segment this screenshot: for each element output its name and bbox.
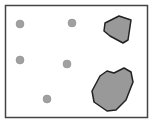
- circle-marker: [16, 56, 24, 64]
- circle-marker: [16, 20, 24, 28]
- circle-marker: [63, 60, 71, 68]
- diagram-svg: [0, 0, 152, 123]
- diagram-canvas: [0, 0, 152, 123]
- circle-marker: [43, 95, 51, 103]
- circle-marker: [68, 19, 76, 27]
